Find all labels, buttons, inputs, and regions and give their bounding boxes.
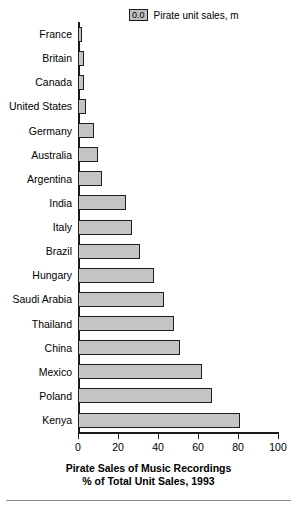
bar: [78, 27, 82, 42]
category-label: Brazil: [46, 245, 72, 257]
category-label: Thailand: [32, 318, 72, 330]
bar: [78, 413, 240, 428]
category-label: Argentina: [27, 173, 72, 185]
x-tick-label: 80: [232, 441, 244, 454]
bottom-divider: [6, 500, 291, 501]
x-tick-label: 20: [112, 441, 124, 454]
x-tick-label: 0: [75, 441, 81, 454]
bar-row: Thailand: [78, 312, 278, 336]
bar: [78, 268, 154, 283]
category-label: Poland: [39, 390, 72, 402]
bar-row: United States: [78, 94, 278, 118]
bar: [78, 292, 164, 307]
bar: [78, 99, 86, 114]
bar-chart: 0.0 Pirate unit sales, m FranceBritainCa…: [0, 0, 297, 507]
category-label: Canada: [35, 76, 72, 88]
bar: [78, 244, 140, 259]
bar: [78, 123, 94, 138]
bar-row: Brazil: [78, 239, 278, 263]
category-label: United States: [9, 100, 72, 112]
bar: [78, 171, 102, 186]
bar-rows: FranceBritainCanadaUnited StatesGermanyA…: [78, 22, 278, 432]
bar: [78, 388, 212, 403]
chart-subtitle: % of Total Unit Sales, 1993: [0, 475, 297, 488]
x-tick: [278, 432, 279, 439]
x-tick: [238, 432, 239, 439]
bar-row: Argentina: [78, 167, 278, 191]
x-tick-label: 60: [192, 441, 204, 454]
category-label: Australia: [31, 149, 72, 161]
bar-row: India: [78, 191, 278, 215]
x-axis-ticks: [78, 432, 278, 440]
category-label: Britain: [42, 52, 72, 64]
bar-row: Canada: [78, 70, 278, 94]
x-tick: [198, 432, 199, 439]
category-label: China: [45, 342, 72, 354]
bar-row: Britain: [78, 46, 278, 70]
bar: [78, 75, 84, 90]
chart-title: Pirate Sales of Music Recordings: [0, 462, 297, 475]
plot-area: FranceBritainCanadaUnited StatesGermanyA…: [78, 22, 278, 432]
x-tick: [118, 432, 119, 439]
x-tick-label: 40: [152, 441, 164, 454]
legend-label: Pirate unit sales, m: [154, 10, 239, 21]
bar: [78, 51, 84, 66]
bar-row: France: [78, 22, 278, 46]
bar: [78, 195, 126, 210]
bar-row: Saudi Arabia: [78, 287, 278, 311]
category-label: Saudi Arabia: [12, 293, 72, 305]
bar-row: Mexico: [78, 360, 278, 384]
category-label: Mexico: [39, 366, 72, 378]
category-label: Germany: [29, 125, 72, 137]
bar-row: China: [78, 336, 278, 360]
category-label: Hungary: [32, 269, 72, 281]
legend-swatch-pirate-unit-sales: 0.0: [129, 9, 148, 21]
x-tick-label: 100: [269, 441, 287, 454]
chart-titles: Pirate Sales of Music Recordings % of To…: [0, 462, 297, 488]
bar-row: Germany: [78, 119, 278, 143]
category-label: France: [39, 28, 72, 40]
bar: [78, 364, 202, 379]
category-label: Italy: [53, 221, 72, 233]
bar-row: Kenya: [78, 408, 278, 432]
bar-row: Hungary: [78, 263, 278, 287]
x-tick: [158, 432, 159, 439]
bar-row: Australia: [78, 143, 278, 167]
bar: [78, 316, 174, 331]
bar: [78, 147, 98, 162]
bar-row: Poland: [78, 384, 278, 408]
category-label: India: [49, 197, 72, 209]
category-label: Kenya: [42, 414, 72, 426]
x-tick: [78, 432, 79, 439]
chart-legend: 0.0 Pirate unit sales, m: [129, 9, 239, 21]
bar: [78, 340, 180, 355]
bar-row: Italy: [78, 215, 278, 239]
x-axis-tick-labels: 020406080100: [78, 441, 278, 455]
bar: [78, 220, 132, 235]
